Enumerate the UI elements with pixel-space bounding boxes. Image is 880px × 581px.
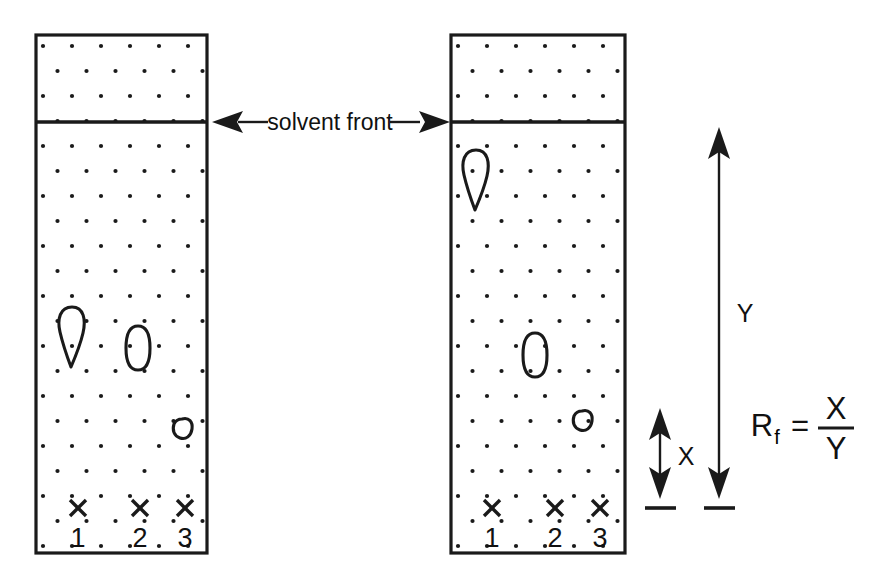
- stipple-dot: [84, 469, 88, 473]
- stipple-dot: [128, 294, 132, 298]
- stipple-dot: [470, 519, 474, 523]
- stipple-dot: [586, 369, 590, 373]
- stipple-dot: [543, 44, 547, 48]
- stipple-dot: [157, 194, 161, 198]
- stipple-dot: [499, 369, 503, 373]
- stipple-dot: [586, 319, 590, 323]
- stipple-dot: [70, 94, 74, 98]
- stipple-dot: [557, 469, 561, 473]
- stipple-dot: [70, 294, 74, 298]
- stipple-dot: [70, 344, 74, 348]
- stipple-dot: [615, 519, 619, 523]
- stipple-dot: [528, 369, 532, 373]
- stipple-dot: [514, 194, 518, 198]
- stipple-dot: [200, 169, 204, 173]
- stipple-dot: [601, 44, 605, 48]
- stipple-dot: [485, 294, 489, 298]
- stipple-dot: [456, 144, 460, 148]
- stipple-dot: [557, 369, 561, 373]
- stipple-dot: [499, 269, 503, 273]
- stipple-dot: [456, 494, 460, 498]
- stipple-dot: [499, 419, 503, 423]
- stipple-dot: [615, 169, 619, 173]
- stipple-dot: [113, 169, 117, 173]
- stipple-dot: [70, 44, 74, 48]
- stipple-dot: [601, 444, 605, 448]
- stipple-dot: [557, 219, 561, 223]
- stipple-dot: [99, 244, 103, 248]
- stipple-dot: [601, 194, 605, 198]
- stipple-dot: [543, 394, 547, 398]
- stipple-dot: [615, 319, 619, 323]
- stipple-dot: [528, 319, 532, 323]
- stipple-dot: [470, 419, 474, 423]
- stipple-dot: [528, 269, 532, 273]
- stipple-dot: [572, 294, 576, 298]
- stipple-dot: [586, 469, 590, 473]
- stipple-dot: [128, 244, 132, 248]
- stipple-dot: [113, 369, 117, 373]
- y-distance-label: Y: [737, 299, 754, 327]
- stipple-dot: [186, 294, 190, 298]
- stipple-dot: [543, 444, 547, 448]
- stipple-dot: [142, 219, 146, 223]
- stipple-dot: [456, 244, 460, 248]
- left-lane-label-3: 3: [177, 523, 192, 553]
- stipple-dot: [99, 194, 103, 198]
- stipple-dot: [157, 294, 161, 298]
- stipple-dot: [572, 44, 576, 48]
- stipple-dot: [543, 144, 547, 148]
- stipple-dot: [200, 69, 204, 73]
- stipple-dot: [528, 419, 532, 423]
- stipple-dot: [615, 369, 619, 373]
- stipple-dot: [514, 244, 518, 248]
- stipple-dot: [171, 219, 175, 223]
- stipple-dot: [499, 219, 503, 223]
- stipple-dot: [456, 44, 460, 48]
- solvent-front-right-arrowhead: [419, 111, 450, 133]
- stipple-dot: [572, 394, 576, 398]
- tlc-figure: 1 2 3: [0, 0, 880, 581]
- stipple-dot: [41, 544, 45, 548]
- x-distance-label: X: [678, 442, 695, 470]
- right-tlc-plate: 1 2 3: [451, 35, 625, 553]
- stipple-dot: [557, 419, 561, 423]
- stipple-dot: [200, 269, 204, 273]
- stipple-dot: [157, 44, 161, 48]
- stipple-dot: [499, 469, 503, 473]
- stipple-dot: [514, 144, 518, 148]
- stipple-dot: [601, 394, 605, 398]
- stipple-dot: [41, 444, 45, 448]
- stipple-dot: [41, 244, 45, 248]
- left-lane-label-1: 1: [70, 523, 85, 553]
- stipple-dot: [99, 344, 103, 348]
- stipple-dot: [470, 369, 474, 373]
- stipple-dot: [499, 69, 503, 73]
- stipple-dot: [55, 69, 59, 73]
- stipple-dot: [456, 194, 460, 198]
- stipple-dot: [171, 69, 175, 73]
- stipple-dot: [157, 94, 161, 98]
- solvent-front-annotation: solvent front: [212, 109, 450, 135]
- stipple-dot: [528, 219, 532, 223]
- stipple-dot: [601, 494, 605, 498]
- stipple-dot: [157, 394, 161, 398]
- right-plate-outline: [451, 35, 625, 553]
- stipple-dot: [528, 69, 532, 73]
- stipple-dot: [55, 269, 59, 273]
- stipple-dot: [41, 394, 45, 398]
- stipple-dot: [113, 69, 117, 73]
- stipple-dot: [41, 94, 45, 98]
- stipple-dot: [456, 344, 460, 348]
- x-distance-annotation: X: [645, 408, 695, 508]
- stipple-dot: [70, 244, 74, 248]
- stipple-dot: [499, 319, 503, 323]
- stipple-dot: [41, 144, 45, 148]
- stipple-dot: [84, 69, 88, 73]
- stipple-dot: [586, 69, 590, 73]
- stipple-dot: [200, 319, 204, 323]
- stipple-dot: [528, 169, 532, 173]
- stipple-dot: [113, 319, 117, 323]
- stipple-dot: [55, 369, 59, 373]
- stipple-dot: [485, 44, 489, 48]
